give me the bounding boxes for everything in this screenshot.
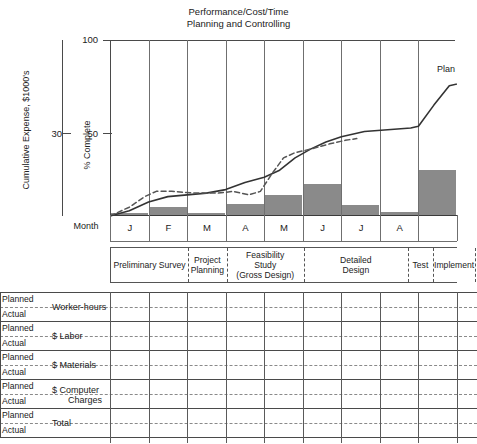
table-row-name: Worker-hours: [52, 302, 118, 312]
month-row-right-border: [457, 215, 458, 241]
table-column-divider: [149, 292, 150, 443]
table-bottom-border: [0, 437, 477, 438]
table-column-divider: [303, 292, 304, 443]
table-column-divider: [226, 292, 227, 443]
phase-label-line: Feasibility: [236, 250, 294, 260]
phase-label: DetailedDesign: [340, 255, 372, 275]
table-row-name: $ ComputerCharges: [52, 385, 118, 405]
row-label-actual: Actual: [2, 338, 48, 348]
table-row-separator: [0, 408, 477, 409]
month-cell: M: [187, 215, 226, 241]
chart-title-block: Performance/Cost/Time Planning and Contr…: [0, 6, 477, 30]
plan-series-label: Plan: [437, 64, 455, 74]
table-row-name: $ Materials: [52, 360, 118, 370]
month-cell: J: [110, 215, 149, 241]
table-column-divider: [380, 292, 381, 443]
table-row-separator: [0, 350, 477, 351]
phase-label: Preliminary Survey: [113, 260, 185, 270]
row-label-actual: Actual: [2, 367, 48, 377]
month-cell: J: [303, 215, 342, 241]
phase-divider: [227, 248, 228, 282]
chart-subtitle: Planning and Controlling: [0, 18, 477, 30]
phase-box: Implement: [433, 248, 475, 282]
left-value-axis: [62, 40, 63, 216]
phase-divider: [188, 248, 189, 282]
month-axis-row: Month JFMAMJJA: [62, 215, 457, 241]
phase-box: Preliminary Survey: [111, 248, 188, 282]
table-column-divider: [187, 292, 188, 443]
phase-box: Test: [408, 248, 433, 282]
phase-label: Project Planning: [188, 255, 227, 275]
row-label-actual: Actual: [2, 309, 48, 319]
month-cell: F: [149, 215, 188, 241]
table-row-separator: [0, 292, 477, 293]
row-label-planned: Planned: [2, 381, 48, 391]
phase-label: Test: [413, 260, 429, 270]
table-column-divider: [110, 292, 111, 443]
month-cell: J: [341, 215, 380, 241]
row-label-planned: Planned: [2, 352, 48, 362]
y-tick-30: 30: [40, 128, 62, 139]
month-cell: [418, 215, 457, 241]
phase-box: FeasibilityStudy(Gross Design): [227, 248, 304, 282]
phase-label-line: Detailed: [340, 255, 372, 265]
phase-box: Project Planning: [188, 248, 227, 282]
month-cell: A: [226, 215, 265, 241]
phase-divider-end: [475, 248, 476, 282]
plan-curve: [110, 82, 457, 216]
phase-divider: [433, 248, 434, 282]
month-cell: M: [264, 215, 303, 241]
phase-label-line: Design: [340, 265, 372, 275]
chart-page: Performance/Cost/Time Planning and Contr…: [0, 0, 477, 444]
table-row-name-line: Charges: [52, 395, 118, 405]
tick-mark-30: [62, 133, 71, 134]
y-axis-label-right: % Complete: [82, 100, 92, 190]
phase-box: DetailedDesign: [304, 248, 408, 282]
table-column-divider: [457, 292, 458, 443]
planned-actual-table: PlannedActualWorker-hoursPlannedActual$ …: [0, 292, 477, 438]
phase-label: FeasibilityStudy(Gross Design): [236, 250, 294, 280]
phase-divider: [304, 248, 305, 282]
table-column-divider: [341, 292, 342, 443]
row-label-actual: Actual: [2, 396, 48, 406]
table-row-name: Total: [52, 418, 118, 428]
phase-divider: [408, 248, 409, 282]
phase-label-line: Study: [236, 260, 294, 270]
month-row-left-border: [110, 215, 111, 241]
table-row-separator: [0, 321, 477, 322]
y-tick-50: 50: [78, 128, 98, 139]
actual-curve: [110, 139, 357, 216]
month-axis-label: Month: [62, 221, 110, 231]
row-label-planned: Planned: [2, 410, 48, 420]
chart-title: Performance/Cost/Time: [0, 6, 477, 18]
table-column-divider: [418, 292, 419, 443]
month-cell: A: [380, 215, 419, 241]
month-row-bottom-border: [110, 241, 457, 242]
table-row-name-line: $ Computer: [52, 385, 118, 395]
curve-layer: [110, 40, 457, 218]
table-row-separator: [0, 379, 477, 380]
row-label-actual: Actual: [2, 425, 48, 435]
phase-label-line: (Gross Design): [236, 270, 294, 280]
table-row-name: $ Labor: [52, 331, 118, 341]
row-label-planned: Planned: [2, 294, 48, 304]
phase-label: Implement: [434, 260, 474, 270]
row-label-planned: Planned: [2, 323, 48, 333]
y-axis-label-left: Cumulative Expense, $1000's: [21, 60, 31, 200]
y-tick-100: 100: [75, 34, 98, 45]
table-column-divider: [264, 292, 265, 443]
project-phase-band: Preliminary SurveyProject PlanningFeasib…: [110, 247, 457, 283]
table-left-border: [0, 292, 1, 437]
